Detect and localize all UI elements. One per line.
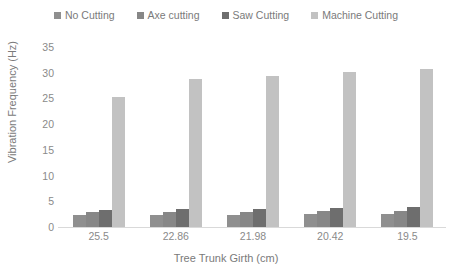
legend-swatch-icon bbox=[54, 12, 61, 19]
bar-group bbox=[137, 47, 214, 227]
legend-label: Machine Cutting bbox=[322, 10, 398, 21]
bar-no-cutting[interactable] bbox=[304, 214, 317, 227]
bar-machine-cutting[interactable] bbox=[343, 72, 356, 227]
bar-machine-cutting[interactable] bbox=[112, 97, 125, 227]
x-axis-tick-label: 25.5 bbox=[88, 231, 108, 242]
bar-saw-cutting[interactable] bbox=[330, 208, 343, 227]
bar-axe-cutting[interactable] bbox=[163, 212, 176, 227]
legend-label: No Cutting bbox=[65, 10, 115, 21]
bar-saw-cutting[interactable] bbox=[99, 210, 112, 227]
chart-legend: No CuttingAxe cuttingSaw CuttingMachine … bbox=[0, 10, 452, 21]
bar-axe-cutting[interactable] bbox=[317, 211, 330, 227]
legend-swatch-icon bbox=[311, 12, 318, 19]
legend-label: Saw Cutting bbox=[233, 10, 290, 21]
legend-label: Axe cutting bbox=[148, 10, 200, 21]
bar-group bbox=[60, 47, 137, 227]
vibration-frequency-bar-chart: No CuttingAxe cuttingSaw CuttingMachine … bbox=[0, 0, 452, 279]
bar-no-cutting[interactable] bbox=[73, 215, 86, 227]
bar-group bbox=[369, 47, 446, 227]
bar-machine-cutting[interactable] bbox=[420, 69, 433, 227]
bar-group bbox=[214, 47, 291, 227]
bar-saw-cutting[interactable] bbox=[407, 207, 420, 227]
x-axis-tick-label: 21.98 bbox=[240, 231, 266, 242]
legend-item-machine-cutting[interactable]: Machine Cutting bbox=[311, 10, 398, 21]
legend-item-axe-cutting[interactable]: Axe cutting bbox=[137, 10, 200, 21]
x-axis-tick-label: 19.5 bbox=[397, 231, 417, 242]
bar-machine-cutting[interactable] bbox=[189, 79, 202, 227]
legend-swatch-icon bbox=[222, 12, 229, 19]
legend-swatch-icon bbox=[137, 12, 144, 19]
legend-item-no-cutting[interactable]: No Cutting bbox=[54, 10, 115, 21]
bar-no-cutting[interactable] bbox=[381, 214, 394, 227]
x-axis-line bbox=[58, 227, 446, 228]
bar-axe-cutting[interactable] bbox=[86, 212, 99, 227]
x-axis-tick-label: 22.86 bbox=[163, 231, 189, 242]
bar-axe-cutting[interactable] bbox=[394, 211, 407, 227]
plot-area: 0510152025303525.522.8621.9820.4219.5 bbox=[60, 47, 446, 227]
y-axis-tick-label: 0 bbox=[4, 222, 54, 233]
x-axis-title: Tree Trunk Girth (cm) bbox=[0, 252, 452, 264]
bar-axe-cutting[interactable] bbox=[240, 212, 253, 227]
bar-saw-cutting[interactable] bbox=[176, 209, 189, 227]
legend-item-saw-cutting[interactable]: Saw Cutting bbox=[222, 10, 290, 21]
x-axis-tick-label: 20.42 bbox=[317, 231, 343, 242]
bar-machine-cutting[interactable] bbox=[266, 76, 279, 227]
bar-no-cutting[interactable] bbox=[227, 215, 240, 227]
y-axis-title: Vibration Frequency (Hz) bbox=[6, 2, 18, 202]
bar-group bbox=[292, 47, 369, 227]
bar-saw-cutting[interactable] bbox=[253, 209, 266, 227]
bar-no-cutting[interactable] bbox=[150, 215, 163, 227]
